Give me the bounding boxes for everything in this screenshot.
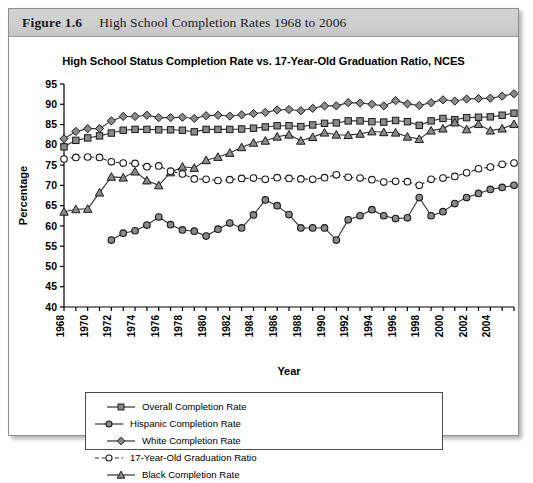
legend-label: 17-Year-Old Graduation Ratio (130, 452, 257, 463)
legend-item[interactable]: Overall Completion Rate (86, 398, 278, 415)
series-17-year-old-graduation-ratio (61, 154, 518, 189)
figure-frame: Figure 1.6 High School Completion Rates … (8, 8, 519, 436)
svg-text:1986: 1986 (268, 315, 279, 338)
chart-container: High School Status Completion Rate vs. 1… (9, 37, 518, 435)
svg-text:1988: 1988 (292, 315, 303, 338)
svg-text:Year: Year (277, 365, 301, 377)
chart-legend: Overall Completion RateHispanic Completi… (85, 392, 443, 450)
svg-text:1992: 1992 (339, 315, 350, 338)
legend-label: Overall Completion Rate (142, 401, 247, 412)
svg-text:70: 70 (45, 179, 57, 191)
legend-circle-filled-icon (94, 418, 124, 430)
legend-item[interactable]: Hispanic Completion Rate (86, 415, 252, 432)
series-black-completion-rate (60, 118, 518, 215)
svg-text:2004: 2004 (481, 315, 492, 338)
svg-text:1990: 1990 (316, 315, 327, 338)
legend-item[interactable]: 17-Year-Old Graduation Ratio (86, 449, 252, 466)
svg-text:50: 50 (45, 260, 57, 272)
legend-label: Hispanic Completion Rate (130, 418, 241, 429)
svg-text:75: 75 (45, 159, 57, 171)
svg-text:85: 85 (45, 118, 57, 130)
svg-text:80: 80 (45, 138, 57, 150)
svg-text:90: 90 (45, 98, 57, 110)
svg-text:1968: 1968 (55, 315, 66, 338)
legend-item[interactable]: White Completion Rate (86, 432, 278, 449)
svg-text:1976: 1976 (150, 315, 161, 338)
svg-text:1984: 1984 (244, 315, 255, 338)
svg-text:1970: 1970 (79, 315, 90, 338)
legend-label: Black Completion Rate (142, 469, 240, 480)
svg-text:1978: 1978 (173, 315, 184, 338)
legend-label: White Completion Rate (142, 435, 241, 446)
svg-text:95: 95 (45, 78, 57, 90)
svg-text:1996: 1996 (387, 315, 398, 338)
figure-caption: High School Completion Rates 1968 to 200… (99, 15, 346, 31)
svg-text:55: 55 (45, 240, 57, 252)
chart-svg: 404550556065707580859095Percentage196819… (9, 37, 518, 435)
legend-circle-open-icon (94, 452, 124, 464)
figure-header: Figure 1.6 High School Completion Rates … (9, 9, 518, 37)
legend-triangle-icon (106, 469, 136, 481)
figure-number: Figure 1.6 (22, 15, 82, 31)
svg-text:1974: 1974 (126, 315, 137, 338)
svg-text:1980: 1980 (197, 315, 208, 338)
series-hispanic-completion-rate (108, 182, 517, 243)
legend-item[interactable]: Black Completion Rate (86, 466, 278, 483)
svg-text:65: 65 (45, 199, 57, 211)
svg-text:Percentage: Percentage (17, 166, 29, 225)
svg-text:40: 40 (45, 301, 57, 313)
svg-text:1972: 1972 (102, 315, 113, 338)
svg-text:45: 45 (45, 280, 57, 292)
svg-text:1994: 1994 (363, 315, 374, 338)
legend-diamond-icon (106, 435, 136, 447)
svg-text:1998: 1998 (410, 315, 421, 338)
svg-text:60: 60 (45, 220, 57, 232)
svg-text:2002: 2002 (458, 315, 469, 338)
svg-text:1982: 1982 (221, 315, 232, 338)
svg-text:2000: 2000 (434, 315, 445, 338)
legend-square-icon (106, 401, 136, 413)
